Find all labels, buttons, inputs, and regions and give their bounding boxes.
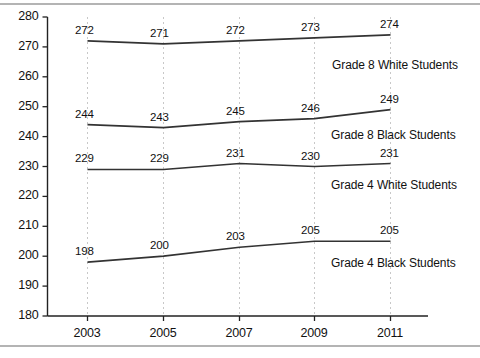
- y-tick-label-210: 210: [9, 218, 39, 232]
- point-label-s0-2007: 272: [226, 24, 245, 36]
- point-label-s0-2009: 273: [301, 21, 320, 33]
- point-label-s3-2009: 205: [301, 224, 320, 236]
- x-tick-label-2011: 2011: [367, 326, 413, 340]
- point-label-s3-2011: 205: [380, 224, 399, 236]
- point-label-s2-2003: 229: [75, 152, 94, 164]
- y-tick-label-200: 200: [9, 248, 39, 262]
- series-label-3: Grade 4 Black Students: [331, 256, 456, 270]
- y-tick-label-270: 270: [9, 39, 39, 53]
- point-label-s0-2003: 272: [75, 24, 94, 36]
- y-tick-label-220: 220: [9, 188, 39, 202]
- y-tick-label-230: 230: [9, 159, 39, 173]
- point-label-s3-2007: 203: [226, 230, 245, 242]
- point-label-s0-2005: 271: [150, 27, 169, 39]
- y-tick-label-250: 250: [9, 99, 39, 113]
- point-label-s0-2011: 274: [380, 18, 399, 30]
- point-label-s3-2003: 198: [75, 245, 94, 257]
- x-tick-marks-group: [88, 316, 391, 321]
- point-label-s2-2011: 231: [380, 147, 399, 159]
- point-label-s3-2005: 200: [150, 239, 169, 251]
- series-label-0: Grade 8 White Students: [332, 58, 458, 72]
- point-label-s1-2005: 243: [150, 111, 169, 123]
- series-label-1: Grade 8 Black Students: [331, 128, 456, 142]
- point-label-s1-2003: 244: [75, 108, 94, 120]
- y-tick-label-280: 280: [9, 9, 39, 23]
- chart-page: 180190200210220230240250260270280 200320…: [0, 0, 480, 358]
- x-tick-label-2005: 2005: [140, 326, 186, 340]
- y-tick-label-240: 240: [9, 129, 39, 143]
- x-tick-label-2007: 2007: [216, 326, 262, 340]
- point-label-s1-2007: 245: [226, 105, 245, 117]
- y-tick-label-260: 260: [9, 69, 39, 83]
- y-tick-label-180: 180: [9, 308, 39, 322]
- y-tick-marks-group: [43, 17, 48, 316]
- y-tick-label-190: 190: [9, 278, 39, 292]
- series-label-2: Grade 4 White Students: [331, 178, 457, 192]
- point-label-s1-2009: 246: [301, 102, 320, 114]
- x-tick-label-2009: 2009: [291, 326, 337, 340]
- x-tick-label-2003: 2003: [64, 326, 110, 340]
- point-label-s2-2005: 229: [150, 152, 169, 164]
- point-label-s1-2011: 249: [380, 93, 399, 105]
- point-label-s2-2009: 230: [301, 150, 320, 162]
- point-label-s2-2007: 231: [226, 147, 245, 159]
